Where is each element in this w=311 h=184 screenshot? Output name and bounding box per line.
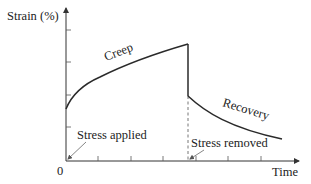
creep-label: Creep	[102, 40, 135, 64]
stress-removed-label: Stress removed	[191, 136, 268, 150]
stress-applied-annotation: Stress applied	[68, 128, 148, 159]
leader-arrow-icon	[68, 142, 86, 159]
creep-recovery-diagram: Strain (%) Time 0 Creep Recovery Stress …	[0, 0, 311, 184]
x-axis-label: Time	[272, 165, 298, 179]
stress-applied-label: Stress applied	[77, 128, 148, 142]
origin-label: 0	[57, 164, 63, 178]
recovery-label: Recovery	[221, 95, 272, 123]
y-axis: Strain (%)	[7, 8, 71, 161]
leader-arrow-icon	[190, 150, 204, 159]
y-axis-label: Strain (%)	[7, 9, 59, 23]
x-axis: Time 0	[57, 156, 299, 179]
stress-removed-annotation: Stress removed	[190, 136, 268, 159]
